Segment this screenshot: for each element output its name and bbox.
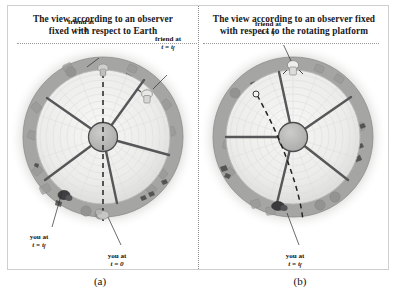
label-you-start-line1: you at bbox=[93, 252, 141, 260]
label-friend-start-value: 0 bbox=[84, 26, 88, 34]
label-friend-end: friend at t = tf bbox=[244, 20, 292, 38]
panel-b-title-line2: with respect to the rotating platform bbox=[199, 25, 389, 37]
label-you-start-value: 0 bbox=[120, 260, 124, 268]
label-friend-end-line1: friend at bbox=[144, 35, 192, 43]
label-friend-end-line1: friend at bbox=[244, 20, 292, 28]
panel-b-stage bbox=[199, 45, 389, 270]
label-friend-end-t: t = t bbox=[161, 43, 173, 51]
label-friend-end-value: f bbox=[173, 45, 175, 51]
panel-b-title-rule bbox=[203, 43, 379, 44]
ball-marker bbox=[253, 91, 259, 97]
label-friend-end-value: f bbox=[273, 30, 275, 36]
label-you-start: you at t = 0 bbox=[93, 252, 141, 269]
label-you-end: you at t = tf bbox=[271, 252, 319, 270]
panel-b-title: The view according to an observer fixed … bbox=[199, 13, 389, 37]
label-you-end-value: f bbox=[300, 262, 302, 268]
caption-b: (b) bbox=[270, 275, 330, 287]
label-you-end-t: t = t bbox=[288, 260, 300, 268]
caption-a: (a) bbox=[70, 275, 130, 287]
panel-a: The view according to an observer fixed … bbox=[7, 5, 199, 270]
label-friend-end-t: t = t bbox=[261, 28, 273, 36]
figure-root: The view according to an observer fixed … bbox=[0, 0, 398, 301]
label-friend-start-line1: friend at bbox=[57, 18, 105, 26]
panel-b: The view according to an observer fixed … bbox=[199, 5, 389, 270]
label-you-end: you at t = tf bbox=[15, 233, 63, 251]
label-you-end-value: f bbox=[44, 243, 46, 249]
label-friend-start: friend at t = 0 bbox=[57, 18, 105, 35]
label-you-end-line1: you at bbox=[15, 233, 63, 241]
label-you-end-t: t = t bbox=[32, 241, 44, 249]
label-friend-end: friend at t = tf bbox=[144, 35, 192, 53]
label-friend-start-t: t = bbox=[74, 26, 84, 34]
panel-b-diagram bbox=[199, 45, 389, 270]
label-you-end-line1: you at bbox=[271, 252, 319, 260]
panel-b-title-line1: The view according to an observer fixed bbox=[199, 13, 389, 25]
label-you-start-t: t = bbox=[110, 260, 120, 268]
